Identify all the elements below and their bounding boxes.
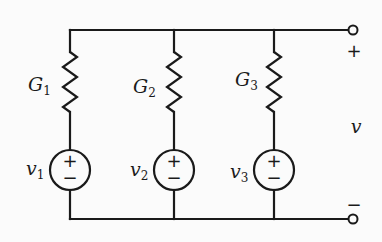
resistor-g1-icon xyxy=(63,52,77,112)
resistor-g2-icon xyxy=(167,52,181,112)
terminal-positive-icon xyxy=(349,26,358,35)
output-plus-sign: + xyxy=(346,40,361,61)
terminal-negative-icon xyxy=(349,215,358,224)
branch-3: + − G3 v3 xyxy=(230,30,294,219)
source-v3-minus: − xyxy=(266,167,281,188)
label-g1: G1 xyxy=(28,73,51,98)
source-v2-minus: − xyxy=(166,167,181,188)
circuit-diagram: + − G1 v1 + − G2 v2 + − G3 v3 xyxy=(0,0,382,242)
branch-1: + − G1 v1 xyxy=(26,30,90,219)
label-g2: G2 xyxy=(133,75,156,100)
label-v1: v1 xyxy=(26,157,44,182)
label-v3: v3 xyxy=(230,160,248,185)
resistor-g3-icon xyxy=(267,52,281,112)
circuit-svg: + − G1 v1 + − G2 v2 + − G3 v3 xyxy=(0,0,382,242)
source-v1-minus: − xyxy=(62,167,77,188)
output-voltage-label: v xyxy=(351,115,362,137)
branch-2: + − G2 v2 xyxy=(130,30,194,219)
output-minus-sign: − xyxy=(346,194,361,215)
label-g3: G3 xyxy=(235,68,258,93)
label-v2: v2 xyxy=(130,158,148,183)
